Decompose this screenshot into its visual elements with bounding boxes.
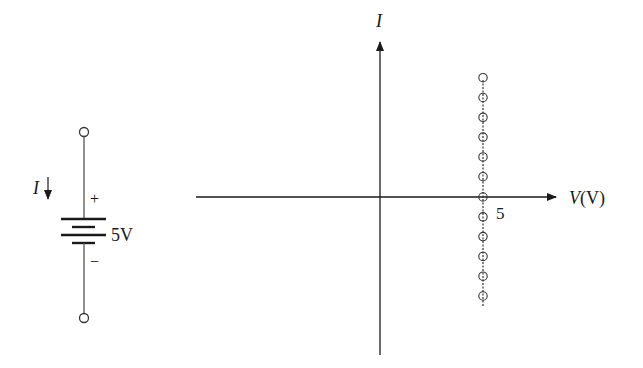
- voltage-source-circuit: [48, 128, 106, 323]
- diagram-canvas: [0, 0, 643, 368]
- data-point-marker: [479, 232, 487, 240]
- y-axis-label: I: [376, 12, 382, 30]
- iv-graph: [196, 42, 556, 355]
- tick-label-5: 5: [496, 205, 505, 222]
- top-terminal: [80, 128, 89, 137]
- minus-sign: −: [90, 254, 99, 270]
- bottom-terminal: [80, 314, 89, 323]
- plus-sign: +: [90, 191, 99, 207]
- voltage-value-label: 5V: [111, 226, 133, 244]
- x-axis-variable: V: [569, 188, 580, 208]
- x-axis-label: V(V): [569, 189, 605, 207]
- x-axis-unit: (V): [580, 188, 605, 208]
- current-label: I: [33, 179, 39, 197]
